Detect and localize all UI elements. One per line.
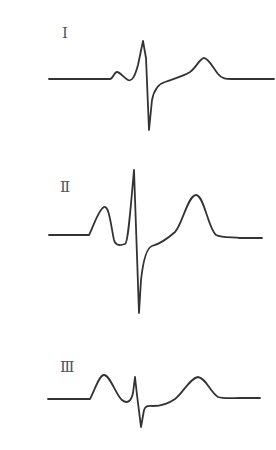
lead-3-trace — [48, 375, 260, 427]
lead-1-trace — [49, 41, 274, 130]
lead-2-trace — [49, 170, 262, 313]
ecg-waveforms — [0, 0, 276, 450]
